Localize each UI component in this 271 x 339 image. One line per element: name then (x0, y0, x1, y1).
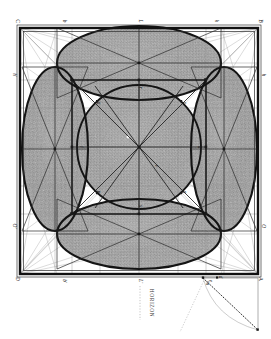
corner-label-D: D (15, 277, 21, 281)
edge-label-top-b: b (62, 20, 68, 23)
perspective-plate: HORIZON C B D A b L k b' L' e h' O' h O … (0, 0, 271, 339)
point-label-p: p (96, 190, 102, 194)
edge-label-right-h: h (261, 74, 267, 77)
corner-label-C: C (15, 19, 21, 23)
point-label-a: a (96, 102, 102, 105)
triangle-label-d: d (218, 276, 224, 279)
point-label-u: u (197, 146, 203, 149)
triangle-label-m: m (205, 281, 211, 285)
point-label-q: q (182, 191, 188, 194)
horizon-caption: HORIZON (149, 289, 155, 317)
edge-label-right-O: O (261, 224, 267, 228)
corner-label-B: B (258, 19, 264, 23)
plate-canvas: HORIZON C B D A b L k b' L' e h' O' h O … (0, 0, 271, 339)
corner-label-A: A (258, 277, 264, 281)
point-label-s: s (138, 205, 144, 207)
edge-label-top-L: L (138, 19, 144, 23)
